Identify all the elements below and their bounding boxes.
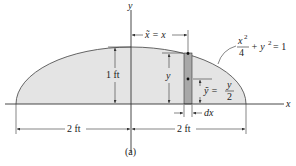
strip-height-label: y [165,70,171,81]
equation-y-exp: 2 [268,39,272,47]
ybar-fraction-num: y [226,79,232,90]
xbar-label: x̃ = x [144,29,166,40]
dx-label: dx [204,107,214,118]
equation-x-num: x [237,35,243,46]
equation-leader [218,46,236,64]
strip-top-point [187,52,190,55]
equation-x-exp: 2 [244,33,248,41]
ellipse-centroid-diagram: x y 1 ft x̃ = x y ỹ = y 2 dx 2 ft 2 ft x… [0,0,296,166]
equation-plus-y: + y [251,41,265,52]
figure-caption: (a) [125,146,136,158]
height-label: 1 ft [106,69,120,80]
equation-x-den: 4 [239,47,244,58]
x-axis-label: x [285,98,291,109]
right-width-label: 2 ft [177,123,191,134]
strip-centroid-point [187,78,190,81]
y-axis-label: y [127,0,133,11]
ybar-label: ỹ = [203,85,218,96]
equation-equals: = 1 [273,41,286,52]
left-width-label: 2 ft [67,123,81,134]
ybar-fraction-den: 2 [227,91,232,102]
